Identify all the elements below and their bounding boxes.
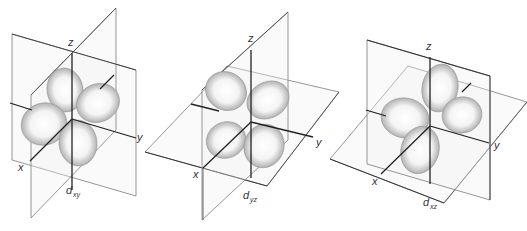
orbital-label-sub: xz	[429, 203, 438, 210]
panel-dxy: z y x d xy	[10, 8, 144, 218]
orbital-label-sub: yz	[249, 196, 258, 204]
x-axis-label: x	[371, 175, 378, 187]
panel-dxz: z y x d xz	[330, 40, 527, 210]
orbital-label-main: d	[243, 189, 250, 201]
orbital-label-sub: xy	[72, 191, 81, 199]
x-axis-label: x	[17, 161, 24, 173]
z-axis-label: z	[425, 40, 432, 52]
z-axis-label: z	[67, 36, 74, 48]
orbital-label-main: d	[66, 184, 73, 196]
x-axis-label: x	[192, 168, 199, 180]
z-axis-label: z	[247, 32, 254, 44]
panel-dyz: z y x d yz	[145, 12, 339, 220]
orbital-label-main: d	[423, 196, 430, 208]
y-axis-label: y	[136, 131, 144, 143]
y-axis-label: y	[315, 136, 323, 148]
d-orbitals-diagram: z y x d xy z y x d yz	[0, 0, 527, 231]
y-axis-label: y	[493, 139, 501, 151]
